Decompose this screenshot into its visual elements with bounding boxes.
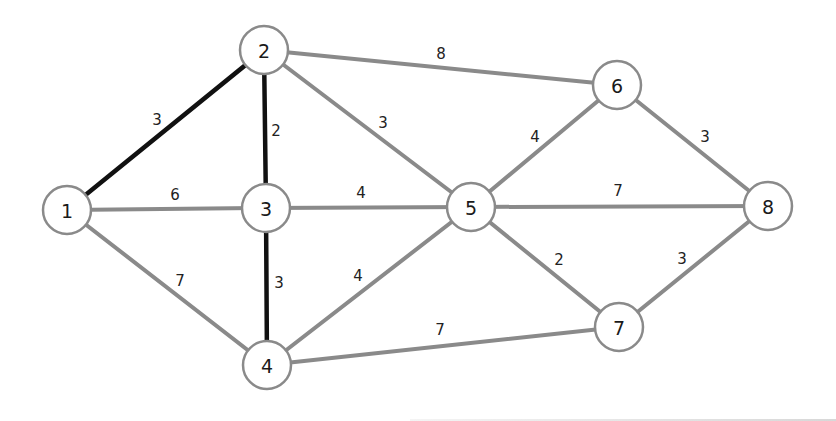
node-label: 7 bbox=[613, 317, 625, 339]
edge-4-5 bbox=[267, 207, 471, 365]
node-label: 1 bbox=[61, 200, 73, 222]
edge-5-8 bbox=[471, 206, 768, 207]
node-label: 5 bbox=[465, 197, 477, 219]
node-4: 4 bbox=[243, 341, 291, 389]
edge-weight-5-6: 4 bbox=[530, 128, 540, 146]
edge-1-4 bbox=[67, 210, 267, 365]
edge-weight-4-7: 7 bbox=[435, 321, 445, 339]
edge-weight-2-5: 3 bbox=[378, 114, 388, 132]
node-8: 8 bbox=[744, 182, 792, 230]
edge-weight-1-4: 7 bbox=[175, 272, 185, 290]
edge-3-5 bbox=[266, 207, 471, 208]
node-6: 6 bbox=[593, 61, 641, 109]
edge-weight-1-3: 6 bbox=[170, 186, 180, 204]
edge-weight-2-3: 2 bbox=[271, 122, 281, 140]
edge-weight-1-2: 3 bbox=[152, 111, 162, 129]
node-label: 3 bbox=[260, 198, 272, 220]
edge-weight-2-6: 8 bbox=[436, 45, 446, 63]
edge-6-8 bbox=[617, 85, 768, 206]
graph-diagram: 367238344747233 12345678 bbox=[0, 0, 836, 421]
edge-1-2 bbox=[67, 50, 264, 210]
edge-weight-3-4: 3 bbox=[274, 274, 284, 292]
node-3: 3 bbox=[242, 184, 290, 232]
edge-weight-3-5: 4 bbox=[356, 184, 366, 202]
edge-2-5 bbox=[264, 50, 471, 207]
edge-5-7 bbox=[471, 207, 619, 327]
node-2: 2 bbox=[240, 26, 288, 74]
node-label: 2 bbox=[258, 40, 270, 62]
node-label: 6 bbox=[611, 75, 623, 97]
edge-5-6 bbox=[471, 85, 617, 207]
edge-weight-4-5: 4 bbox=[353, 267, 363, 285]
edge-1-3 bbox=[67, 208, 266, 210]
node-1: 1 bbox=[43, 186, 91, 234]
edge-weight-5-8: 7 bbox=[613, 182, 623, 200]
edges-layer bbox=[67, 50, 768, 365]
node-5: 5 bbox=[447, 183, 495, 231]
node-label: 4 bbox=[261, 355, 273, 377]
edge-weight-6-8: 3 bbox=[700, 128, 710, 146]
edge-weight-5-7: 2 bbox=[554, 251, 564, 269]
node-7: 7 bbox=[595, 303, 643, 351]
edge-7-8 bbox=[619, 206, 768, 327]
edge-weight-7-8: 3 bbox=[677, 250, 687, 268]
node-label: 8 bbox=[762, 196, 774, 218]
